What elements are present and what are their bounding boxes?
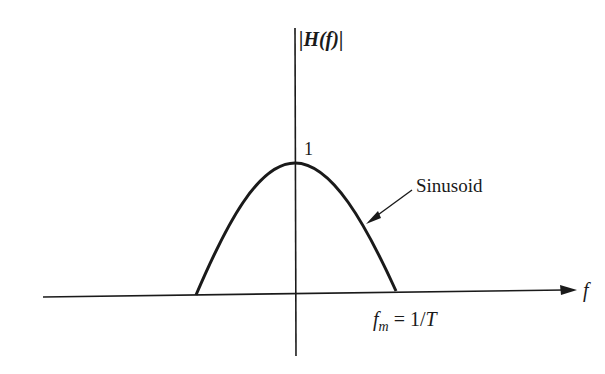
x-axis-label: f (583, 279, 591, 302)
cutoff-equals: = 1/ (389, 308, 426, 330)
y-axis (295, 28, 296, 356)
x-axis-arrowhead-icon (560, 285, 577, 295)
cutoff-frequency-label: fm = 1/T (373, 308, 439, 334)
cutoff-period: T (426, 308, 439, 330)
x-axis (43, 290, 564, 297)
y-axis-label: |H(f)| (299, 28, 343, 51)
curve-annotation-label: Sinusoid (416, 175, 483, 196)
annotation-arrowhead-icon (366, 211, 381, 224)
cutoff-subscript: m (379, 319, 389, 334)
frequency-response-diagram: |H(f)| 1 Sinusoid f fm = 1/T (0, 0, 605, 374)
peak-value-label: 1 (304, 139, 313, 159)
